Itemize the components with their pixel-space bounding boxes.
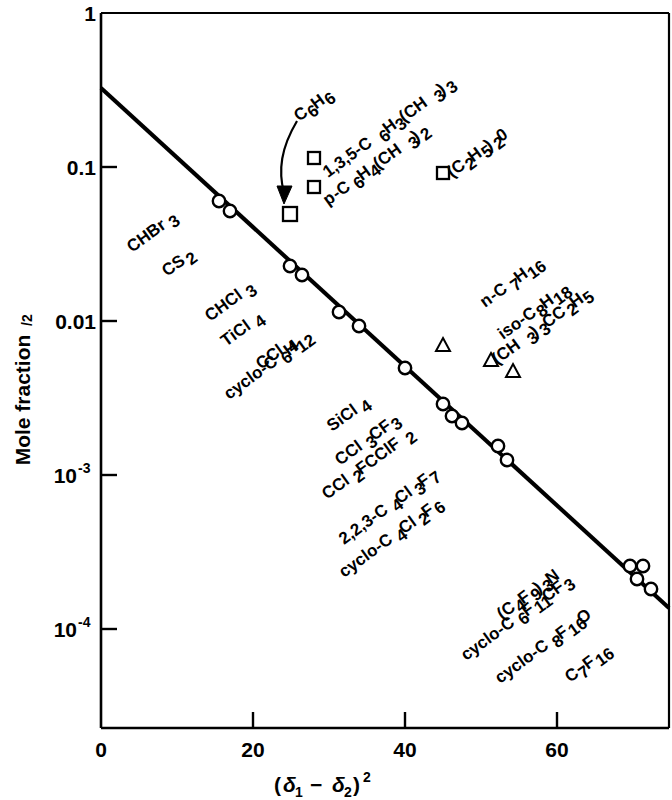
y-axis-title-main: Mole fraction <box>11 335 34 466</box>
marker-square-p-xylene <box>308 181 320 193</box>
x-tick-label-0: 0 <box>95 738 107 761</box>
marker-circle-c8f16o <box>637 560 649 572</box>
marker-circle-c6f11cf3 <box>624 560 636 572</box>
marker-circle-c4cl3f7 <box>456 417 468 429</box>
y-tick-label-1e-4: 10 <box>54 618 77 641</box>
y-axis-title: Mole fraction /2 <box>11 314 35 465</box>
marker-circle-ccl3cf3 <box>437 398 449 410</box>
marker-circle-extra <box>645 583 657 595</box>
chart-figure: 1 0.1 0.01 10 -3 10 -4 Mole fraction /2 … <box>0 0 672 800</box>
y-tick-label-0.01: 0.01 <box>55 310 96 333</box>
x-title-sub2: 2 <box>344 784 352 800</box>
marker-square-benzene <box>283 207 297 221</box>
marker-circle-cyclohexane <box>353 320 365 332</box>
x-title-sub1: 1 <box>295 784 303 800</box>
x-tick-label-60: 60 <box>545 738 568 761</box>
marker-circle-ticl4 <box>296 269 308 281</box>
y-tick-label-0.1: 0.1 <box>67 156 97 179</box>
y-tick-exp-1e-4: -4 <box>78 614 91 630</box>
x-title-minus: − <box>310 773 322 796</box>
solubility-log-plot: 1 0.1 0.01 10 -3 10 -4 Mole fraction /2 … <box>0 0 672 800</box>
x-title-paren-close: ) <box>353 773 360 796</box>
marker-square-mesitylene <box>308 152 320 164</box>
marker-circle-chbr3 <box>213 195 225 207</box>
marker-circle-sicl4 <box>399 362 411 374</box>
x-title-paren-open: ( <box>274 773 281 796</box>
marker-circle-cs2 <box>224 205 236 217</box>
y-tick-label-1: 1 <box>84 2 96 25</box>
marker-circle-c7f16 <box>631 573 643 585</box>
x-tick-label-20: 20 <box>241 738 264 761</box>
y-tick-label-1e-3: 10 <box>54 464 77 487</box>
x-title-power: 2 <box>363 769 371 785</box>
x-tick-label-40: 40 <box>393 738 416 761</box>
marker-circle-chcl3 <box>284 260 296 272</box>
y-axis-title-sub: /2 <box>19 314 35 326</box>
marker-circle-ccl4 <box>333 306 345 318</box>
marker-circle-c4f9-3n <box>501 454 513 466</box>
y-tick-exp-1e-3: -3 <box>78 460 91 476</box>
marker-circle-c4cl2f6 <box>492 440 504 452</box>
